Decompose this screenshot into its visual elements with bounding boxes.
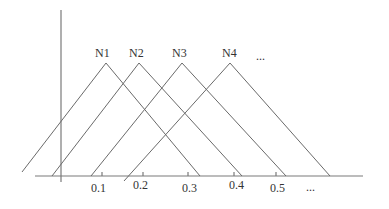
x-tick-label-0.3: 0.3: [182, 181, 197, 195]
diagram-canvas: N1 N2 N3 N4 ... 0.1 0.2 0.3 0.4 0.5 ...: [0, 0, 389, 209]
node-label-n2: N2: [129, 46, 144, 60]
triangle-n1: [22, 63, 200, 176]
x-tick-label-0.1: 0.1: [91, 181, 106, 195]
x-axis-ellipsis: ...: [306, 180, 315, 194]
x-tick-label-0.5: 0.5: [270, 181, 285, 195]
node-label-n4: N4: [222, 46, 237, 60]
triangle-n2: [52, 63, 242, 176]
x-tick-label-0.4: 0.4: [229, 178, 244, 192]
node-label-n1: N1: [95, 46, 110, 60]
node-label-n3: N3: [172, 46, 187, 60]
node-ellipsis: ...: [256, 49, 265, 63]
x-tick-label-0.2: 0.2: [133, 178, 148, 192]
